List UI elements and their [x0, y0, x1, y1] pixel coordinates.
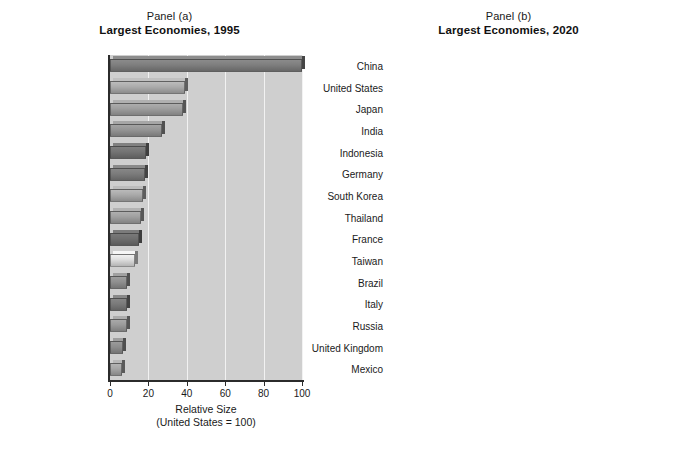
panel-a-xlabel-line1: Relative Size [175, 403, 236, 415]
category-label: Italy [365, 299, 383, 310]
x-tick-label: 0 [107, 388, 113, 399]
bar-side-face [145, 165, 148, 178]
bar [110, 276, 127, 289]
bar-front-face [110, 59, 302, 72]
bar-front-face [110, 298, 127, 311]
bar-side-face [127, 295, 130, 308]
x-tick-label: 80 [258, 388, 269, 399]
bar [110, 103, 183, 116]
panel-a-plot-area [110, 55, 302, 380]
x-tick [225, 382, 226, 386]
bar-side-face [123, 338, 126, 351]
category-label: Mexico [351, 364, 383, 375]
panel-a-xlabel-line2: (United States = 100) [156, 416, 256, 429]
panel-a-x-axis [108, 380, 304, 382]
bar-side-face [183, 100, 186, 113]
x-tick [110, 382, 111, 386]
bar-side-face [141, 208, 144, 221]
bar [110, 363, 122, 376]
panel-b-plot-wrap: ChinaUnited StatesJapanIndiaIndonesiaGer… [339, 0, 678, 451]
bar-front-face [110, 233, 139, 246]
bar-side-face [185, 78, 188, 91]
x-tick [302, 382, 303, 386]
category-label: China [357, 60, 383, 71]
category-label: Brazil [358, 277, 383, 288]
panel-a: Panel (a) Largest Economies, 1995 United… [0, 0, 339, 451]
category-label: United Kingdom [312, 342, 383, 353]
panel-a-plot-wrap: United StatesJapanChinaGermanyFranceIndi… [0, 0, 339, 451]
bar-side-face [302, 56, 305, 69]
panel-a-plot-inner [110, 55, 302, 380]
bar-front-face [110, 341, 123, 354]
gridline [264, 55, 265, 380]
bar-side-face [162, 121, 165, 134]
x-tick-label: 60 [220, 388, 231, 399]
figure-bottom-margin [0, 445, 678, 451]
gridline [225, 55, 226, 380]
bar-front-face [110, 168, 145, 181]
bar [110, 59, 302, 72]
bar [110, 168, 145, 181]
bar-front-face [110, 124, 162, 137]
panel-a-axis-caption: Relative Size (United States = 100) [156, 403, 256, 429]
bar-side-face [127, 316, 130, 329]
category-label: Japan [356, 104, 383, 115]
bar-front-face [110, 211, 141, 224]
bar [110, 254, 135, 267]
bar-side-face [146, 143, 149, 156]
bar [110, 81, 185, 94]
gridline [187, 55, 188, 380]
category-label: Indonesia [340, 147, 383, 158]
bar [110, 124, 162, 137]
bar-front-face [110, 146, 146, 159]
gridline [302, 55, 303, 380]
panel-a-y-axis [108, 55, 110, 380]
bar-front-face [110, 103, 183, 116]
bar [110, 146, 146, 159]
bar-front-face [110, 276, 127, 289]
x-tick [264, 382, 265, 386]
bar-side-face [127, 273, 130, 286]
panel-b: Panel (b) Largest Economies, 2020 ChinaU… [339, 0, 678, 451]
category-label: Germany [342, 169, 383, 180]
bar-front-face [110, 319, 127, 332]
x-tick-label: 40 [181, 388, 192, 399]
figure-root: Panel (a) Largest Economies, 1995 United… [0, 0, 678, 451]
bar-side-face [139, 230, 142, 243]
category-label: Thailand [345, 212, 383, 223]
bar [110, 341, 123, 354]
x-tick-label: 100 [294, 388, 311, 399]
bar [110, 233, 139, 246]
bar [110, 319, 127, 332]
x-tick [148, 382, 149, 386]
bar-front-face [110, 81, 185, 94]
bar-side-face [122, 360, 125, 373]
bar-front-face [110, 254, 135, 267]
bar-front-face [110, 363, 122, 376]
x-tick-label: 20 [143, 388, 154, 399]
bar [110, 211, 141, 224]
bar-side-face [135, 251, 138, 264]
category-label: Russia [352, 320, 383, 331]
bar [110, 298, 127, 311]
category-label: United States [323, 82, 383, 93]
category-label: India [361, 125, 383, 136]
category-label: Taiwan [352, 255, 383, 266]
bar-side-face [143, 186, 146, 199]
category-label: South Korea [327, 190, 383, 201]
category-label: France [352, 234, 383, 245]
bar [110, 189, 143, 202]
x-tick [187, 382, 188, 386]
bar-front-face [110, 189, 143, 202]
